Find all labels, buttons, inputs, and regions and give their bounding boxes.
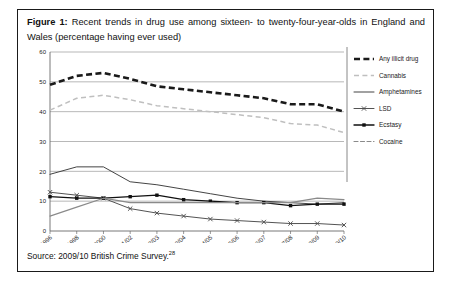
series-line-1 [50, 95, 344, 132]
legend-label-5: Cocaine [379, 138, 403, 145]
marker-square-1 [75, 196, 78, 199]
series-any-illicit-drug [50, 73, 344, 112]
source-text: Source: 2009/10 British Crime Survey. [27, 251, 169, 261]
x-tick-label-6: 2004/05 [192, 233, 214, 243]
x-tick-label-10: 2008/09 [299, 233, 321, 243]
x-tick-label-1: 1998 [65, 233, 80, 243]
y-tick-label-30: 30 [39, 139, 46, 145]
legend-item-ecstasy[interactable]: Ecstasy [354, 121, 402, 129]
figure-caption: Figure 1: Recent trends in drug use amon… [27, 15, 425, 44]
legend-item-cocaine[interactable]: Cocaine [354, 138, 403, 145]
series-line-3 [50, 192, 344, 225]
legend-label-2: Amphetamines [379, 88, 422, 96]
legend-label-4: Ecstasy [379, 121, 402, 129]
source-footnote-marker: 28 [169, 250, 175, 256]
series-cannabis [50, 95, 344, 132]
y-tick-label-10: 10 [39, 198, 46, 204]
x-tick-label-4: 2002/03 [139, 233, 161, 243]
legend-label-0: Any illicit drug [379, 55, 419, 63]
figure-container: Figure 1: Recent trends in drug use amon… [17, 9, 434, 272]
chart-plot-area: 01020304050601996199820002001/022002/032… [24, 47, 429, 243]
legend-label-1: Cannabis [379, 72, 406, 79]
legend-marker-square-4 [362, 123, 365, 126]
legend-label-3: LSD [379, 105, 392, 112]
series-lsd [48, 190, 346, 227]
marker-square-4 [155, 194, 158, 197]
x-tick-label-9: 2007/08 [273, 233, 295, 243]
series-line-0 [50, 73, 344, 112]
marker-square-3 [128, 195, 131, 198]
marker-square-11 [342, 202, 345, 205]
y-tick-label-60: 60 [39, 49, 46, 55]
x-tick-label-3: 2001/02 [112, 233, 134, 243]
y-tick-label-40: 40 [39, 109, 46, 115]
marker-square-9 [289, 204, 292, 207]
y-tick-label-0: 0 [43, 228, 47, 234]
marker-square-5 [182, 198, 185, 201]
legend-item-cannabis[interactable]: Cannabis [354, 72, 406, 79]
x-tick-label-2: 2000 [92, 233, 107, 243]
marker-square-0 [48, 195, 51, 198]
source-note: Source: 2009/10 British Crime Survey.28 [27, 250, 175, 261]
figure-caption-text: Recent trends in drug use among sixteen-… [27, 17, 425, 42]
x-tick-label-11: 2009/10 [326, 233, 348, 243]
legend-item-any-illicit-drug[interactable]: Any illicit drug [354, 55, 419, 63]
line-chart: 01020304050601996199820002001/022002/032… [24, 47, 429, 243]
y-tick-label-50: 50 [39, 79, 46, 85]
x-tick-label-8: 2006/07 [246, 233, 268, 243]
legend-item-lsd[interactable]: LSD [354, 105, 392, 112]
legend-item-amphetamines[interactable]: Amphetamines [354, 88, 422, 96]
y-tick-label-20: 20 [39, 169, 46, 175]
x-tick-label-0: 1996 [38, 233, 53, 243]
figure-label: Figure 1: [27, 17, 68, 27]
x-tick-label-5: 2003/04 [166, 233, 188, 243]
marker-square-10 [316, 202, 319, 205]
x-tick-label-7: 2005/06 [219, 233, 241, 243]
